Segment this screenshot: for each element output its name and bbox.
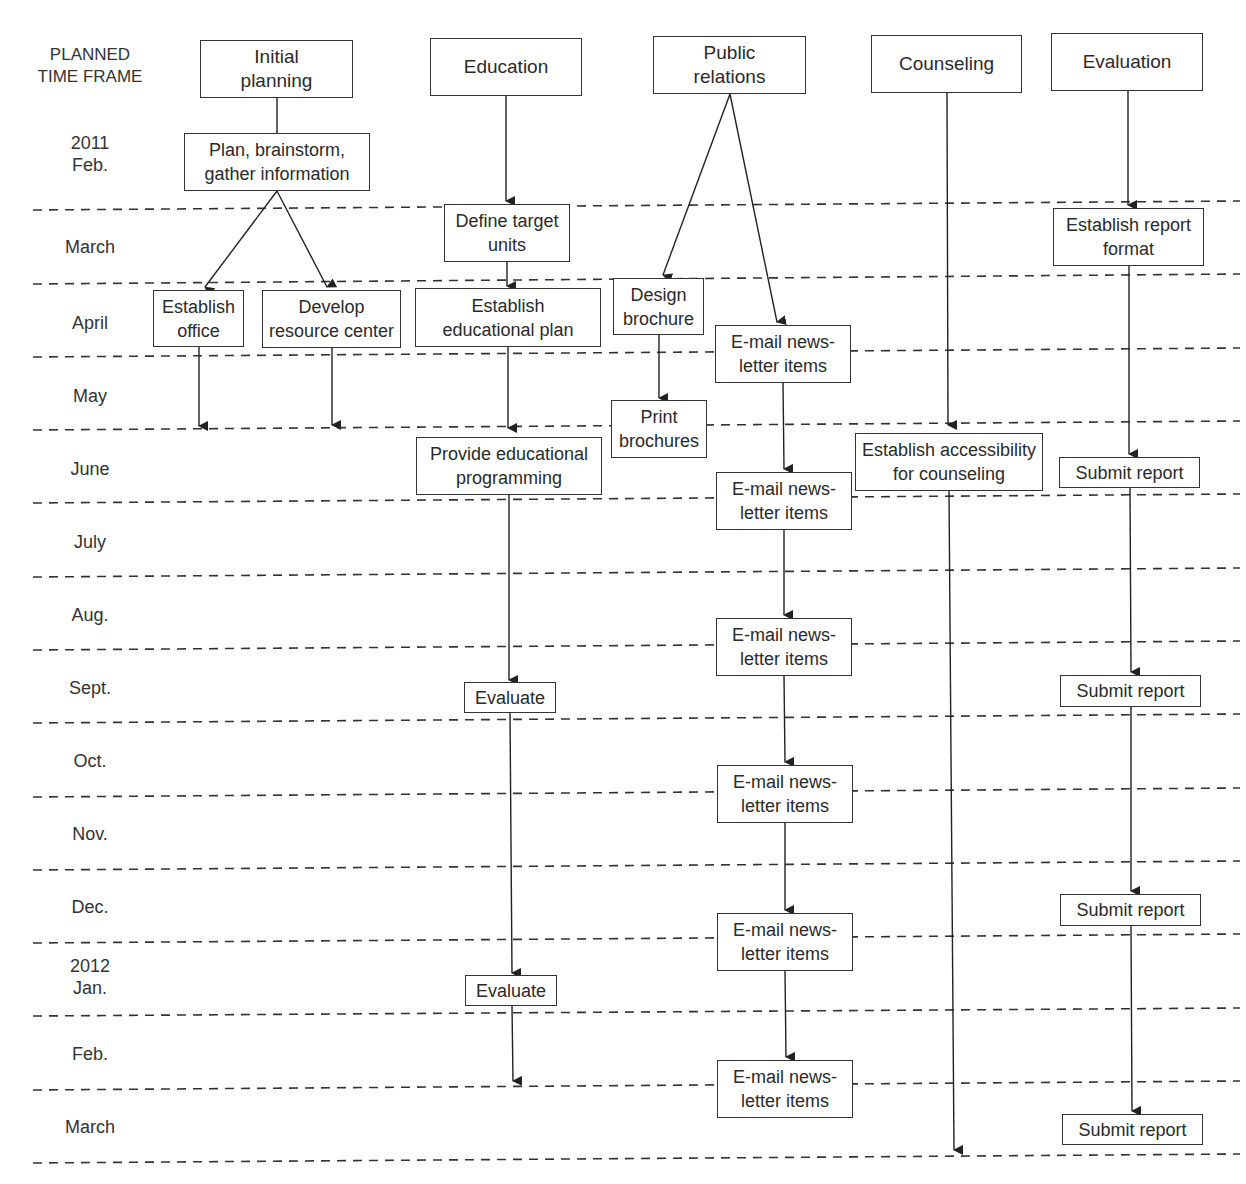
month-label-2012-jan: 2012 Jan. — [40, 955, 140, 999]
track-header-counseling: Counseling — [871, 35, 1022, 93]
connectors — [199, 91, 1132, 1150]
step-submit-report-2: Submit report — [1060, 675, 1201, 707]
step-email-newsletter-3: E-mail news- letter items — [716, 618, 852, 676]
step-email-newsletter-2: E-mail news- letter items — [716, 472, 852, 530]
step-plan-brainstorm: Plan, brainstorm, gather information — [184, 133, 370, 191]
step-submit-report-3: Submit report — [1060, 894, 1201, 926]
month-label-oct: Oct. — [40, 750, 140, 772]
month-label-nov: Nov. — [40, 823, 140, 845]
step-evaluate-jan: Evaluate — [465, 975, 557, 1006]
step-develop-resource-center: Develop resource center — [262, 290, 401, 348]
month-label-aug: Aug. — [40, 604, 140, 626]
step-email-newsletter-1: E-mail news- letter items — [715, 325, 851, 383]
month-label-sept: Sept. — [40, 677, 140, 699]
step-establish-office: Establish office — [153, 290, 244, 347]
step-email-newsletter-6: E-mail news- letter items — [717, 1060, 853, 1118]
month-label-dec: Dec. — [40, 896, 140, 918]
step-establish-educational-plan: Establish educational plan — [415, 288, 601, 347]
month-label-may: May — [40, 385, 140, 407]
track-header-evaluation: Evaluation — [1051, 33, 1203, 91]
step-define-target-units: Define target units — [444, 204, 570, 262]
step-email-newsletter-4: E-mail news- letter items — [717, 765, 853, 823]
month-label-april: April — [40, 312, 140, 334]
step-design-brochure: Design brochure — [613, 278, 704, 335]
month-label-feb-2012: Feb. — [40, 1043, 140, 1065]
step-email-newsletter-5: E-mail news- letter items — [717, 913, 853, 971]
step-establish-report-format: Establish report format — [1053, 208, 1204, 266]
month-label-2011-feb: 2011 Feb. — [40, 132, 140, 176]
month-label-march-2012: March — [40, 1116, 140, 1138]
track-header-initial-planning: Initial planning — [200, 40, 353, 98]
step-print-brochures: Print brochures — [611, 400, 707, 458]
track-header-public-relations: Public relations — [653, 36, 806, 94]
step-provide-educational-programming: Provide educational programming — [416, 437, 602, 495]
step-evaluate-sept: Evaluate — [464, 682, 556, 713]
month-label-june: June — [40, 458, 140, 480]
time-frame-heading: PLANNED TIME FRAME — [30, 44, 150, 88]
month-label-march-2011: March — [40, 236, 140, 258]
step-establish-accessibility: Establish accessibility for counseling — [855, 433, 1043, 491]
step-submit-report-1: Submit report — [1059, 457, 1200, 488]
step-submit-report-4: Submit report — [1062, 1114, 1203, 1145]
track-header-education: Education — [430, 38, 582, 96]
timeline-flowchart: PLANNED TIME FRAME 2011 Feb. March April… — [0, 0, 1246, 1184]
month-label-july: July — [40, 531, 140, 553]
